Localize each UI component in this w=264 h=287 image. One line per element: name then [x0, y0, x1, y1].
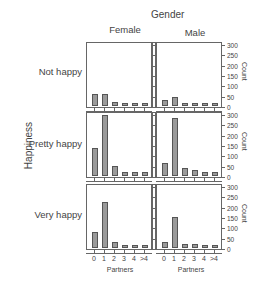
x-tick-label: 2: [109, 255, 119, 262]
bar: [172, 97, 178, 106]
bar: [122, 172, 128, 176]
y-tick: [222, 146, 225, 147]
panel-not-happy-female: [86, 42, 152, 108]
y-axis-label: Count: [241, 204, 248, 223]
y-axis-label: Count: [241, 62, 248, 81]
x-tick-label: 4: [199, 255, 209, 262]
x-tick-label: 1: [169, 255, 179, 262]
bar: [202, 245, 208, 248]
panel-pretty-happy-male: [156, 112, 222, 178]
row-label-pretty-happy: Pretty happy: [10, 138, 82, 149]
bar: [102, 115, 108, 176]
bar: [162, 163, 168, 176]
bar: [192, 170, 198, 176]
y-tick: [222, 45, 225, 46]
bar: [192, 103, 198, 106]
bar: [212, 245, 218, 248]
y-tick-label: 0: [227, 174, 231, 181]
column-label-female: Female: [100, 24, 150, 35]
x-tick-label: 1: [99, 255, 109, 262]
y-tick: [222, 187, 225, 188]
x-tick-label: 3: [189, 255, 199, 262]
y-tick: [222, 218, 225, 219]
y-tick-label: 100: [227, 83, 238, 90]
x-tick-label: 0: [89, 255, 99, 262]
y-tick-label: 50: [227, 164, 234, 171]
bar: [202, 103, 208, 106]
y-tick-label: 0: [227, 246, 231, 253]
y-tick-label: 300: [227, 112, 238, 119]
y-tick: [222, 125, 225, 126]
bar: [112, 102, 118, 106]
bar: [212, 172, 218, 176]
bar: [122, 103, 128, 106]
y-tick-label: 250: [227, 52, 238, 59]
panel-very-happy-male: [156, 184, 222, 250]
column-facet-title: Gender: [151, 9, 184, 20]
x-axis-label-male: Partners: [166, 266, 216, 273]
bar: [102, 94, 108, 106]
y-tick: [222, 86, 225, 87]
y-tick-label: 150: [227, 215, 238, 222]
x-tick-label: 0: [159, 255, 169, 262]
y-tick: [222, 107, 225, 108]
column-label-male: Male: [170, 27, 220, 38]
y-tick: [222, 156, 225, 157]
bar: [142, 103, 148, 106]
y-tick: [222, 115, 225, 116]
row-label-very-happy: Very happy: [10, 209, 82, 220]
y-tick-label: 150: [227, 143, 238, 150]
y-tick-label: 0: [227, 104, 231, 111]
y-tick: [222, 136, 225, 137]
bar: [132, 245, 138, 248]
bar: [142, 245, 148, 248]
x-axis-label-female: Partners: [95, 266, 145, 273]
y-tick: [222, 177, 225, 178]
x-axis-line: [86, 253, 152, 254]
bar: [172, 217, 178, 248]
bar: [162, 100, 168, 106]
y-tick-label: 50: [227, 236, 234, 243]
y-tick: [222, 239, 225, 240]
y-tick-label: 50: [227, 94, 234, 101]
bar: [112, 242, 118, 248]
y-tick: [222, 208, 225, 209]
bar: [92, 94, 98, 106]
bar: [112, 166, 118, 176]
bar: [182, 244, 188, 248]
bar: [192, 244, 198, 248]
panel-pretty-happy-female: [86, 112, 152, 178]
x-axis-line: [86, 181, 152, 182]
bar: [92, 148, 98, 176]
y-tick-label: 100: [227, 225, 238, 232]
x-tick-label: 2: [179, 255, 189, 262]
bar: [102, 202, 108, 248]
y-axis-label: Count: [241, 132, 248, 151]
bar: [132, 172, 138, 176]
panel-not-happy-male: [156, 42, 222, 108]
row-label-not-happy: Not happy: [10, 66, 82, 77]
bar: [182, 168, 188, 176]
panel-very-happy-female: [86, 184, 152, 250]
bar: [182, 103, 188, 106]
y-tick: [222, 197, 225, 198]
y-tick: [222, 228, 225, 229]
x-tick-label: >4: [209, 255, 219, 262]
bar: [132, 103, 138, 106]
y-tick-label: 200: [227, 133, 238, 140]
y-tick-label: 250: [227, 122, 238, 129]
bar: [122, 245, 128, 248]
y-tick-label: 150: [227, 73, 238, 80]
bar: [202, 172, 208, 176]
y-tick-label: 100: [227, 153, 238, 160]
bar: [172, 118, 178, 176]
y-tick: [222, 167, 225, 168]
x-tick-label: >4: [139, 255, 149, 262]
y-tick-label: 200: [227, 205, 238, 212]
y-tick-label: 300: [227, 42, 238, 49]
y-tick-label: 250: [227, 194, 238, 201]
y-tick-label: 200: [227, 63, 238, 70]
bar: [212, 103, 218, 106]
y-tick: [222, 76, 225, 77]
x-axis-line: [156, 181, 222, 182]
